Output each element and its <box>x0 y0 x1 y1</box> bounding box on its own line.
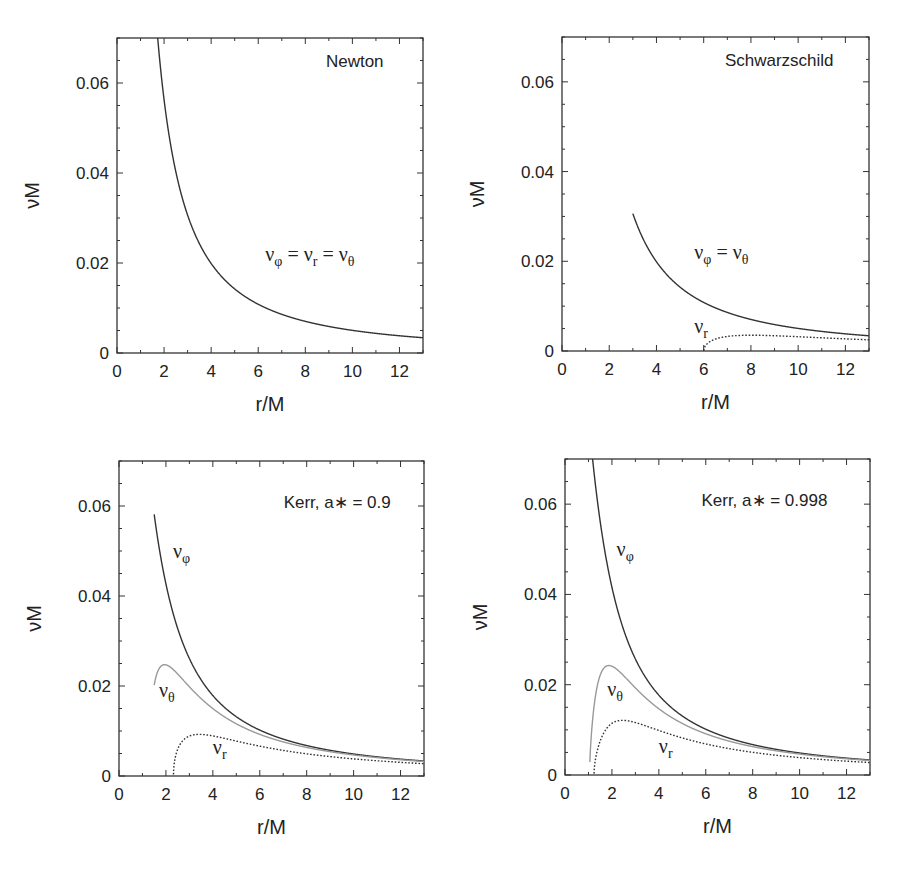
y-axis-title: νM <box>469 604 491 631</box>
y-tick-label: 0.06 <box>76 74 109 93</box>
x-tick-label: 10 <box>790 784 809 803</box>
x-tick-label: 0 <box>114 785 123 804</box>
nu-phi-curve <box>633 214 870 336</box>
x-tick-label: 2 <box>607 784 616 803</box>
x-tick-label: 4 <box>654 784 663 803</box>
y-tick-label: 0.06 <box>524 495 557 514</box>
x-tick-label: 8 <box>302 785 311 804</box>
panel-4: 02468101200.020.040.06r/MνMKerr, a∗ = 0.… <box>469 441 871 837</box>
x-tick-label: 4 <box>208 785 217 804</box>
nu-phi-curve <box>154 514 425 761</box>
x-tick-label: 8 <box>748 784 757 803</box>
plot-frame <box>562 37 869 351</box>
x-tick-label: 2 <box>159 362 168 381</box>
nu-theta-curve <box>590 666 871 763</box>
curve-label: νθ <box>607 678 623 704</box>
y-tick-label: 0.04 <box>524 585 557 604</box>
x-axis-title: r/M <box>257 816 286 838</box>
x-tick-label: 4 <box>206 362 215 381</box>
y-tick-label: 0.02 <box>78 677 111 696</box>
curve-label: νφ <box>617 538 634 564</box>
x-tick-label: 12 <box>391 785 410 804</box>
y-tick-label: 0.04 <box>521 163 554 182</box>
curve-label: νφ = νθ <box>694 241 748 267</box>
x-tick-label: 10 <box>343 362 362 381</box>
curve-label: νθ <box>159 679 175 705</box>
x-tick-label: 8 <box>746 360 755 379</box>
curve-label: νr <box>213 736 227 762</box>
panel-title: Schwarzschild <box>725 51 834 70</box>
y-tick-label: 0 <box>545 342 554 361</box>
y-tick-label: 0.06 <box>521 73 554 92</box>
y-tick-label: 0.02 <box>521 252 554 271</box>
y-axis-title: νM <box>21 182 43 209</box>
x-tick-label: 6 <box>255 785 264 804</box>
y-axis-title: νM <box>23 605 45 632</box>
y-tick-label: 0 <box>102 767 111 786</box>
panel-2: 02468101200.020.040.06r/MνMSchwarzschild… <box>466 37 870 413</box>
y-tick-label: 0.06 <box>78 497 111 516</box>
x-tick-label: 8 <box>301 362 310 381</box>
y-tick-label: 0.02 <box>524 676 557 695</box>
x-axis-title: r/M <box>701 391 730 413</box>
nu-phi-curve <box>591 441 871 760</box>
y-tick-label: 0.04 <box>76 164 109 183</box>
x-tick-label: 6 <box>699 360 708 379</box>
figure-canvas: 02468101200.020.040.06r/MνMNewtonνφ = νr… <box>0 0 899 877</box>
x-tick-label: 4 <box>652 360 661 379</box>
y-tick-label: 0.04 <box>78 587 111 606</box>
nu-r-curve <box>173 734 425 774</box>
x-tick-label: 6 <box>253 362 262 381</box>
y-axis-title: νM <box>466 181 488 208</box>
x-tick-label: 12 <box>390 362 409 381</box>
x-axis-title: r/M <box>256 393 285 415</box>
y-tick-label: 0 <box>548 766 557 785</box>
nu-r-curve <box>594 720 871 773</box>
nu-phi-curve <box>155 0 425 338</box>
x-tick-label: 0 <box>557 360 566 379</box>
panel-1: 02468101200.020.040.06r/MνMNewtonνφ = νr… <box>21 0 424 415</box>
curve-label: νφ <box>173 540 190 566</box>
panel-title: Kerr, a∗ = 0.9 <box>284 493 391 512</box>
y-tick-label: 0.02 <box>76 254 109 273</box>
x-tick-label: 2 <box>604 360 613 379</box>
curve-label: νr <box>694 315 708 341</box>
nu-theta-curve <box>154 665 425 762</box>
panel-3: 02468101200.020.040.06r/MνMKerr, a∗ = 0.… <box>23 461 425 838</box>
curve-label: νφ = νr = νθ <box>265 243 354 269</box>
panel-title: Newton <box>326 52 384 71</box>
x-tick-label: 10 <box>789 360 808 379</box>
panel-title: Kerr, a∗ = 0.998 <box>701 491 827 510</box>
x-tick-label: 0 <box>112 362 121 381</box>
y-tick-label: 0 <box>100 344 109 363</box>
x-tick-label: 0 <box>560 784 569 803</box>
x-tick-label: 12 <box>836 360 855 379</box>
x-axis-title: r/M <box>703 815 732 837</box>
x-tick-label: 6 <box>701 784 710 803</box>
x-tick-label: 10 <box>344 785 363 804</box>
curve-label: νr <box>659 735 673 761</box>
x-tick-label: 12 <box>837 784 856 803</box>
x-tick-label: 2 <box>161 785 170 804</box>
